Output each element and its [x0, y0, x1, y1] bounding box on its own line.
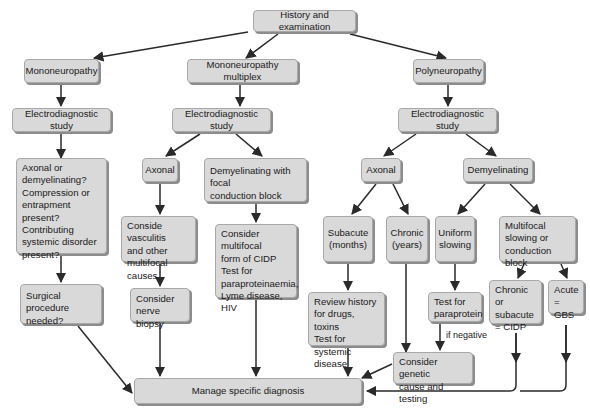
node-mononeuropathy: Mononeuropathy: [24, 59, 99, 83]
node-label: Mononeuropathy: [26, 65, 98, 77]
node-label: Mononeuropathy multiplex: [193, 59, 292, 84]
node-consider-cidp-form: Consider multifocal form of CIDP Test fo…: [215, 224, 297, 298]
node-label: Axonal: [366, 164, 395, 176]
node-consider-vasculitis: Conside vasculitis and other multifocal …: [121, 216, 196, 262]
node-label: Chronic (years): [390, 227, 423, 252]
node-electrodiagnostic-poly: Electrodiagnostic study: [398, 108, 497, 132]
node-consider-genetic: Consider genetic cause and testing: [393, 352, 473, 384]
node-polyneuropathy: Polyneuropathy: [413, 59, 484, 83]
node-label: Multifocal slowing or conduction block: [505, 220, 551, 268]
node-poly-demyelinating: Demyelinating: [463, 158, 533, 182]
node-subacute-months: Subacute (months): [323, 216, 373, 262]
node-consider-nerve-biopsy: Consider nerve biopsy: [130, 288, 190, 322]
node-manage-specific-diagnosis: Manage specific diagnosis: [134, 378, 362, 404]
edge-label-if-negative: if negative: [446, 330, 487, 340]
node-label: History and examination: [259, 9, 350, 34]
node-acute-gbs: Acute = GBS: [548, 280, 584, 314]
node-label: Polyneuropathy: [415, 65, 482, 77]
node-label: Surgical procedure needed?: [26, 290, 69, 326]
node-electrodiagnostic-mono: Electrodiagnostic study: [12, 108, 111, 132]
node-chronic-years: Chronic (years): [386, 216, 428, 262]
node-review-history: Review history for drugs, toxins Test fo…: [308, 292, 385, 346]
node-label: Axonal: [145, 164, 174, 176]
node-label: Uniform slowing: [438, 227, 472, 252]
node-electrodiagnostic-multiplex: Electrodiagnostic study: [172, 108, 271, 132]
node-history-examination: History and examination: [253, 10, 356, 32]
node-label: Manage specific diagnosis: [192, 385, 305, 397]
node-multiplex-axonal: Axonal: [142, 158, 178, 182]
node-label: Electrodiagnostic study: [404, 108, 491, 133]
node-test-paraprotein: Test for paraprotein: [428, 292, 482, 322]
node-label: Electrodiagnostic study: [18, 108, 105, 133]
node-label: Demyelinating: [468, 164, 529, 176]
node-label: Electrodiagnostic study: [178, 108, 265, 133]
node-uniform-slowing: Uniform slowing: [435, 216, 475, 262]
node-label: Test for paraprotein: [434, 296, 483, 319]
node-mono-questions: Axonal or demyelinating? Compression or …: [16, 158, 107, 254]
node-label: Demyelinating with focal conduction bloc…: [210, 165, 291, 201]
node-poly-axonal: Axonal: [361, 158, 401, 182]
node-surgical-procedure: Surgical procedure needed?: [20, 284, 102, 324]
node-label: Subacute (months): [328, 227, 369, 252]
node-mononeuropathy-multiplex: Mononeuropathy multiplex: [187, 59, 298, 83]
node-multiplex-demyelinating: Demyelinating with focal conduction bloc…: [204, 158, 307, 202]
node-chronic-cidp: Chronic or subacute = CIDP: [489, 280, 542, 324]
node-multifocal-slowing: Multifocal slowing or conduction block: [499, 216, 576, 262]
node-label: Axonal or demyelinating? Compression or …: [22, 162, 97, 260]
